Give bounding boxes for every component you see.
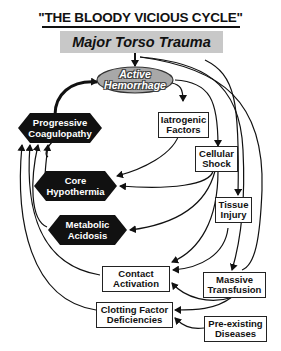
- node-label: Hypothermia: [46, 186, 104, 197]
- node-label: Core: [65, 175, 87, 186]
- node-label: Activation: [113, 279, 159, 290]
- node-massive-transfusion: Massive Transfusion: [203, 272, 266, 298]
- node-pre-existing-diseases: Pre-existing Diseases: [204, 316, 267, 342]
- node-label: Shock: [202, 159, 231, 170]
- node-metabolic-acidosis: Metabolic Acidosis: [48, 215, 127, 245]
- node-label: Progressive: [33, 117, 87, 128]
- node-clotting-factor-deficiencies: Clotting Factor Deficiencies: [96, 302, 173, 328]
- node-contact-activation: Contact Activation: [102, 266, 170, 292]
- node-label: Injury: [221, 210, 247, 221]
- node-label: Diseases: [215, 329, 256, 340]
- node-progressive-coagulopathy: Progressive Coagulopathy: [18, 113, 102, 143]
- node-tissue-injury: Tissue Injury: [215, 197, 252, 223]
- node-label: Deficiencies: [107, 315, 162, 326]
- node-cellular-shock: Cellular Shock: [195, 146, 238, 172]
- node-label: Coagulopathy: [28, 128, 91, 139]
- node-label: Transfusion: [208, 285, 262, 296]
- node-active-hemorrhage: Active Hemorrhage: [97, 69, 173, 91]
- node-label: Hemorrhage: [97, 80, 173, 91]
- node-label: Factors: [166, 125, 200, 136]
- node-label: Metabolic: [66, 219, 110, 230]
- node-core-hypothermia: Core Hypothermia: [34, 171, 117, 201]
- node-iatrogenic-factors: Iatrogenic Factors: [158, 112, 209, 138]
- node-label: Acidosis: [68, 230, 108, 241]
